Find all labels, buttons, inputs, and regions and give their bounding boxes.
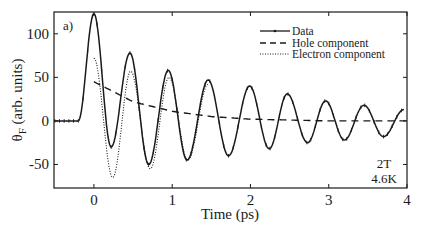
y-tick-label: -50: [29, 156, 49, 172]
x-tick-label: 1: [168, 192, 176, 208]
panel-label: a): [63, 18, 73, 33]
x-axis-title: Time (ps): [201, 206, 259, 223]
x-tick-label: 3: [325, 192, 333, 208]
figure: 01234-50050100 a) Data Hole component El…: [0, 0, 426, 232]
y-tick-label: 0: [42, 113, 50, 129]
legend-data-label: Data: [292, 25, 314, 37]
plot-canvas: 01234-50050100 a) Data Hole component El…: [0, 0, 426, 232]
y-axis-title-symbol: θ: [9, 134, 25, 141]
x-tick-label: 4: [403, 192, 411, 208]
legend-data-marker: [274, 30, 277, 33]
hole-component-curve: [94, 82, 407, 121]
legend: Data Hole component Electron component: [260, 25, 386, 61]
annotation-temperature: 4.6K: [371, 171, 397, 186]
x-tick-label: 0: [90, 192, 98, 208]
annotation-field: 2T: [377, 156, 392, 171]
y-axis-title: θF (arb. units): [9, 59, 28, 142]
y-axis-title-units: (arb. units): [9, 59, 26, 129]
svg-text:θF (arb. units): θF (arb. units): [9, 59, 28, 142]
y-tick-label: 50: [34, 69, 49, 85]
legend-electron-label: Electron component: [292, 48, 386, 61]
y-tick-label: 100: [27, 26, 50, 42]
